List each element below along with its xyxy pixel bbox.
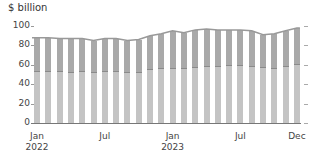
x-tick-month: Jul xyxy=(225,131,255,142)
x-tick-month: Jan xyxy=(158,131,188,142)
x-axis-line xyxy=(31,123,301,124)
x-tick-label: Dec xyxy=(282,131,312,142)
x-tick-label: Jan2022 xyxy=(22,131,52,153)
x-tick-label: Jul xyxy=(225,131,255,142)
x-tick-year: 2022 xyxy=(22,142,52,153)
x-tick-month: Jul xyxy=(90,131,120,142)
x-tick-label: Jan2023 xyxy=(158,131,188,153)
x-tick-month: Jan xyxy=(22,131,52,142)
x-tick-month: Dec xyxy=(282,131,312,142)
x-tick-year: 2023 xyxy=(158,142,188,153)
x-tick-label: Jul xyxy=(90,131,120,142)
